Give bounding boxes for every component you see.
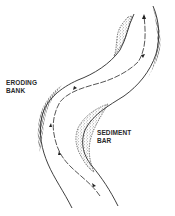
sediment-bar-label: SEDIMENT BAR: [97, 129, 131, 145]
flow-arrows: [49, 14, 146, 187]
eroding-bank-label-line1: ERODING: [6, 79, 37, 87]
flow-arrow-icon: [142, 14, 146, 19]
flow-arrow-icon: [73, 86, 77, 90]
flow-arrow-icon: [49, 123, 52, 127]
river-meander-diagram: [0, 0, 175, 216]
eroding-bank-label-line2: BANK: [6, 87, 37, 95]
flow-line: [53, 16, 145, 196]
sediment-bar-label-line1: SEDIMENT: [97, 129, 131, 137]
eroding-bank-label: ERODING BANK: [6, 79, 37, 95]
sediment-bar-label-line2: BAR: [97, 137, 131, 145]
sediment-bar-upper: [114, 16, 132, 56]
